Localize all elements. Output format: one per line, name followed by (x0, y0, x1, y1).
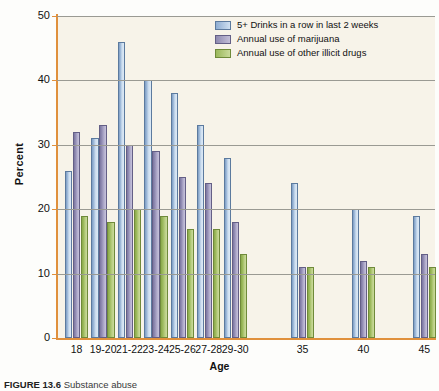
gridline (57, 16, 435, 17)
bar (126, 145, 133, 338)
bar (107, 222, 114, 338)
bar (368, 267, 375, 338)
y-axis-tick-label: 40 (8, 73, 50, 85)
y-axis-tick-label: 50 (8, 9, 50, 21)
bar (307, 267, 314, 338)
x-axis-title: Age (0, 360, 439, 372)
bar (360, 261, 367, 338)
legend-swatch (215, 21, 231, 30)
legend-swatch (215, 49, 231, 58)
bar (213, 229, 220, 338)
legend-label: 5+ Drinks in a row in last 2 weeks (237, 20, 378, 30)
bar (240, 254, 247, 338)
figure-caption-text: Substance abuse (64, 379, 137, 390)
bar (421, 254, 428, 338)
x-axis-tick-label: 45 (394, 343, 439, 355)
legend-label: Annual use of other illicit drugs (237, 48, 366, 58)
bar (429, 267, 436, 338)
bars-layer (57, 16, 435, 338)
y-axis-tick-label: 10 (8, 267, 50, 279)
bar (99, 125, 106, 338)
legend-item: Annual use of other illicit drugs (215, 47, 378, 59)
bar (413, 216, 420, 338)
bar (187, 229, 194, 338)
y-axis-tick-label: 30 (8, 138, 50, 150)
bar (73, 132, 80, 338)
bar (299, 267, 306, 338)
legend-label: Annual use of marijuana (237, 34, 339, 44)
bar (179, 177, 186, 338)
x-axis-tick-label: 35 (273, 343, 333, 355)
gridline (57, 274, 435, 275)
bar (224, 158, 231, 338)
bar (65, 171, 72, 338)
gridline (57, 145, 435, 146)
bar (205, 183, 212, 338)
bar (118, 42, 125, 338)
y-axis-tick-label: 0 (8, 331, 50, 343)
gridline (57, 80, 435, 81)
legend: 5+ Drinks in a row in last 2 weeksAnnual… (212, 17, 382, 64)
x-axis-tick-label: 29-30 (205, 343, 265, 355)
bar (171, 93, 178, 338)
y-axis-tick-label: 20 (8, 202, 50, 214)
figure-container: Percent 01020304050 5+ Drinks in a row i… (0, 0, 439, 391)
bar (152, 151, 159, 338)
figure-caption-label: FIGURE 13.6 (4, 379, 61, 390)
legend-item: Annual use of marijuana (215, 33, 378, 45)
y-axis-title: Percent (13, 119, 25, 209)
gridline (57, 209, 435, 210)
bar (81, 216, 88, 338)
x-axis-tick-label: 40 (333, 343, 393, 355)
bar (197, 125, 204, 338)
bar (160, 216, 167, 338)
bar (91, 138, 98, 338)
figure-caption: FIGURE 13.6 Substance abuse (4, 379, 434, 391)
x-axis-line (56, 338, 436, 340)
legend-item: 5+ Drinks in a row in last 2 weeks (215, 19, 378, 31)
legend-swatch (215, 35, 231, 44)
bar (232, 222, 239, 338)
bar (291, 183, 298, 338)
